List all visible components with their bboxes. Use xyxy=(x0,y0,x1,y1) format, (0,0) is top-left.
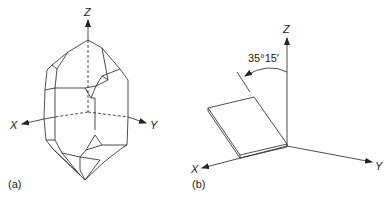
figure-canvas: Z X Y (a) Z X Y 35°15′ (b) xyxy=(0,0,391,203)
panel-a-z-label: Z xyxy=(83,6,92,18)
panel-b-diagram xyxy=(202,38,372,168)
panel-a-crystal xyxy=(22,20,146,180)
panel-b-z-label: Z xyxy=(282,23,291,35)
panel-b-x-label: X xyxy=(190,163,199,175)
panel-a-x-label: X xyxy=(9,119,18,131)
angle-label: 35°15′ xyxy=(248,52,279,64)
panel-b-label: (b) xyxy=(192,178,205,190)
panel-b-y-label: Y xyxy=(375,160,383,172)
panel-a-label: (a) xyxy=(8,178,21,190)
tilt-reference-line xyxy=(237,72,250,92)
panel-a-y-label: Y xyxy=(150,119,158,131)
panel-a-x-axis xyxy=(22,119,44,124)
panel-a-y-axis xyxy=(128,117,146,123)
angle-arc-arrow xyxy=(245,68,287,76)
panel-b-y-axis xyxy=(287,146,372,162)
